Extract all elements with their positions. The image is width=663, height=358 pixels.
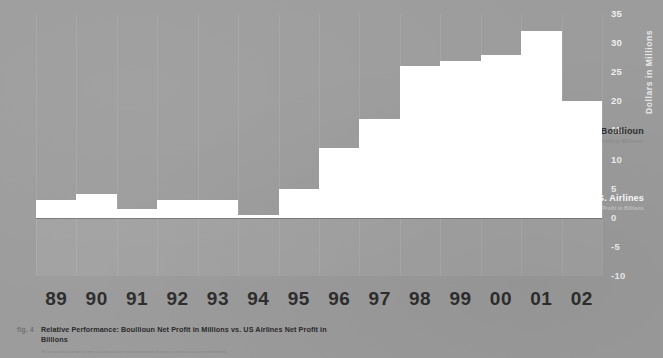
bar-boullioun <box>238 215 278 218</box>
bar-boullioun <box>157 200 197 217</box>
y-axis-tick-label: 25 <box>611 66 622 77</box>
x-axis-tick-label: 91 <box>117 288 157 310</box>
bar-boullioun <box>319 148 359 218</box>
bar-boullioun <box>400 66 440 217</box>
y-axis-tick-label: -5 <box>611 241 620 252</box>
figure-footnote: *Before tax and extraordinary items; exc… <box>41 350 341 357</box>
bar-boullioun <box>359 119 399 218</box>
y-axis-tick-label: 30 <box>611 37 622 48</box>
x-axis-tick-label: 99 <box>440 288 480 310</box>
x-axis-tick-label: 02 <box>562 288 602 310</box>
y-axis-tick-label: 0 <box>611 212 617 223</box>
bar-boullioun <box>279 189 319 218</box>
y-axis-tick-label: 20 <box>611 95 622 106</box>
x-axis-tick-label: 89 <box>36 288 76 310</box>
x-axis-tick-label: 93 <box>198 288 238 310</box>
bar-boullioun <box>562 101 602 217</box>
x-axis-tick-label: 95 <box>279 288 319 310</box>
bar-boullioun <box>76 194 116 217</box>
figure-caption-text: Relative Performance: Boullioun Net Prof… <box>41 325 347 345</box>
x-axis-tick-label: 94 <box>238 288 278 310</box>
bar-boullioun <box>521 31 561 217</box>
x-axis-tick-label: 92 <box>157 288 197 310</box>
x-axis-tick-label: 98 <box>400 288 440 310</box>
figure-number: fig. 4 <box>17 325 34 333</box>
y-axis-tick-label: 5 <box>611 183 617 194</box>
bar-boullioun <box>117 209 157 218</box>
y-axis-tick-label: 35 <box>611 8 622 19</box>
bar-boullioun <box>36 200 76 217</box>
bar-series-group <box>36 14 602 276</box>
bar-boullioun <box>481 55 521 218</box>
x-axis-tick-label: 96 <box>319 288 359 310</box>
y-axis-tick-label: 10 <box>611 154 622 165</box>
gridline-vertical <box>602 14 603 276</box>
figure-caption: fig. 4 Relative Performance: Boullioun N… <box>17 325 347 345</box>
x-axis-tick-label: 97 <box>359 288 399 310</box>
x-axis-tick-label: 01 <box>521 288 561 310</box>
y-axis-tick-label: -10 <box>611 270 626 281</box>
bar-boullioun <box>198 200 238 217</box>
y-axis-title: Dollars in Millions <box>644 30 654 114</box>
x-axis-tick-label: 00 <box>481 288 521 310</box>
bar-boullioun <box>440 61 480 218</box>
plot-area <box>36 14 602 276</box>
figure-container: 35302520151050-5-10 Dollars in Millions … <box>0 0 663 358</box>
x-axis-tick-label: 90 <box>76 288 116 310</box>
